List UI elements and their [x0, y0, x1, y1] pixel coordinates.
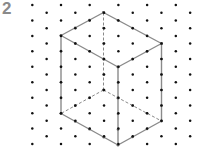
grid-dot — [146, 35, 149, 38]
grid-dot — [31, 50, 34, 53]
grid-dot — [103, 58, 106, 61]
grid-dot — [175, 112, 178, 115]
grid-dot — [31, 127, 34, 130]
grid-dot — [160, 42, 163, 45]
grid-dot — [45, 89, 48, 92]
grid-dot — [146, 96, 149, 99]
grid-dot — [45, 135, 48, 138]
grid-dot — [60, 96, 63, 99]
grid-dot — [117, 96, 120, 99]
grid-dot — [132, 42, 135, 45]
grid-dot — [146, 112, 149, 115]
grid-dot — [45, 27, 48, 30]
grid-dot — [146, 19, 149, 22]
grid-dot — [160, 58, 163, 61]
grid-dot — [60, 81, 63, 84]
dot-grid — [31, 4, 191, 146]
grid-dot — [74, 104, 77, 107]
grid-dot — [146, 66, 149, 69]
grid-dot — [189, 120, 192, 123]
grid-dot — [160, 120, 163, 123]
grid-dot — [146, 81, 149, 84]
grid-dot — [88, 19, 91, 22]
grid-dot — [103, 11, 106, 14]
grid-dot — [74, 120, 77, 123]
grid-dot — [103, 89, 106, 92]
grid-dot — [31, 35, 34, 38]
grid-dot — [103, 120, 106, 123]
grid-dot — [117, 66, 120, 69]
grid-dot — [132, 27, 135, 30]
grid-dot — [45, 11, 48, 14]
grid-dot — [132, 11, 135, 14]
grid-dot — [175, 19, 178, 22]
grid-dot — [74, 73, 77, 76]
grid-dot — [103, 42, 106, 45]
grid-dot — [31, 19, 34, 22]
grid-dot — [132, 135, 135, 138]
isometric-dot-diagram — [0, 0, 198, 165]
grid-dot — [117, 112, 120, 115]
grid-dot — [88, 4, 91, 7]
grid-dot — [175, 35, 178, 38]
grid-dot — [60, 19, 63, 22]
grid-dot — [160, 73, 163, 76]
grid-dot — [117, 19, 120, 22]
grid-dot — [160, 135, 163, 138]
grid-dot — [60, 66, 63, 69]
cuboid-edges — [60, 11, 163, 146]
edge-bottom-front-right — [118, 121, 162, 145]
grid-dot — [60, 35, 63, 38]
grid-dot — [31, 143, 34, 146]
grid-dot — [132, 120, 135, 123]
grid-dot — [189, 73, 192, 76]
grid-dot — [74, 58, 77, 61]
grid-dot — [60, 127, 63, 130]
grid-dot — [45, 104, 48, 107]
grid-dot — [146, 127, 149, 130]
grid-dot — [117, 127, 120, 130]
grid-dot — [45, 58, 48, 61]
grid-dot — [88, 50, 91, 53]
grid-dot — [189, 89, 192, 92]
grid-dot — [74, 135, 77, 138]
grid-dot — [146, 143, 149, 146]
grid-dot — [88, 81, 91, 84]
grid-dot — [88, 35, 91, 38]
grid-dot — [146, 4, 149, 7]
edge-top-back-left — [61, 13, 104, 36]
grid-dot — [103, 135, 106, 138]
grid-dot — [88, 96, 91, 99]
grid-dot — [88, 66, 91, 69]
grid-dot — [103, 73, 106, 76]
grid-dot — [45, 73, 48, 76]
grid-dot — [117, 35, 120, 38]
grid-dot — [103, 27, 106, 30]
grid-dot — [160, 27, 163, 30]
grid-dot — [103, 104, 106, 107]
grid-dot — [74, 89, 77, 92]
grid-dot — [175, 96, 178, 99]
grid-dot — [60, 143, 63, 146]
grid-dot — [31, 96, 34, 99]
grid-dot — [132, 104, 135, 107]
grid-dot — [88, 127, 91, 130]
grid-dot — [132, 89, 135, 92]
edge-bottom-back-left-hidden — [61, 90, 104, 114]
grid-dot — [74, 11, 77, 14]
grid-dot — [189, 104, 192, 107]
grid-dot — [45, 120, 48, 123]
grid-dot — [60, 50, 63, 53]
grid-dot — [74, 42, 77, 45]
grid-dot — [175, 50, 178, 53]
grid-dot — [31, 66, 34, 69]
grid-dot — [31, 112, 34, 115]
grid-dot — [175, 143, 178, 146]
grid-dot — [60, 4, 63, 7]
grid-dot — [31, 4, 34, 7]
grid-dot — [74, 27, 77, 30]
grid-dot — [132, 58, 135, 61]
grid-dot — [189, 11, 192, 14]
grid-dot — [117, 4, 120, 7]
grid-dot — [88, 112, 91, 115]
